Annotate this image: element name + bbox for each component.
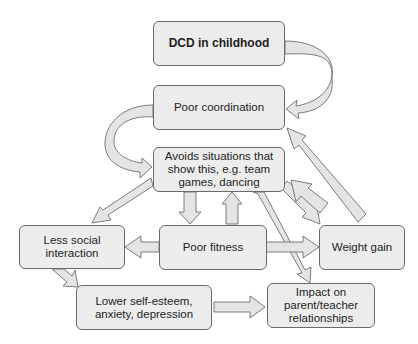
arrow-self-esteem-to-impact <box>214 296 265 318</box>
node-less-social-interaction: Less social interaction <box>19 225 125 269</box>
arrow-coordination-to-avoids <box>105 105 153 178</box>
node-lower-self-esteem: Lower self-esteem, anxiety, depression <box>76 285 212 330</box>
node-label: Poor coordination <box>174 101 264 114</box>
node-label: Poor fitness <box>183 241 244 254</box>
arrow-dcd-to-coordination <box>285 41 332 119</box>
arrow-fitness-to-avoids <box>222 192 242 224</box>
arrow-less-social-to-self-esteem <box>52 269 78 287</box>
node-dcd-in-childhood: DCD in childhood <box>153 21 285 66</box>
arrow-avoids-to-fitness <box>179 192 201 224</box>
node-poor-fitness: Poor fitness <box>159 225 267 270</box>
arrow-fitness-to-less-social <box>125 236 159 258</box>
node-weight-gain: Weight gain <box>319 225 405 270</box>
node-avoids-situations: Avoids situations that show this, e.g. t… <box>153 147 285 192</box>
node-label: Impact on parent/teacher relationships <box>284 286 358 325</box>
node-label: Less social interaction <box>44 234 101 260</box>
node-impact-relationships: Impact on parent/teacher relationships <box>267 283 375 328</box>
node-poor-coordination: Poor coordination <box>153 85 285 130</box>
node-label: DCD in childhood <box>169 37 270 50</box>
arrow-weight-to-coordination <box>287 128 366 222</box>
node-label: Lower self-esteem, anxiety, depression <box>95 295 193 321</box>
node-label: Avoids situations that show this, e.g. t… <box>165 150 273 189</box>
arrow-avoids-to-less-social <box>92 178 153 223</box>
node-label: Weight gain <box>332 241 393 254</box>
